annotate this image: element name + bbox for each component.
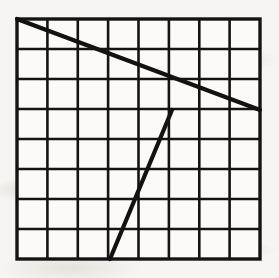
figure-container: Square grid with two straight line segme… (0, 0, 279, 278)
grid-figure: Square grid with two straight line segme… (0, 0, 279, 278)
